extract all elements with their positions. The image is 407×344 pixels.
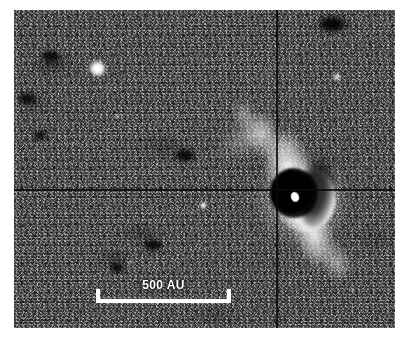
image-frame: 500 AU <box>14 10 395 328</box>
scale-bar-label: 500 AU <box>96 278 231 292</box>
scale-bar-line <box>96 299 231 303</box>
crosshair-vertical-line <box>276 10 278 328</box>
astronomical-figure: 500 AU <box>0 0 407 344</box>
crosshair-horizontal-line <box>14 189 395 191</box>
